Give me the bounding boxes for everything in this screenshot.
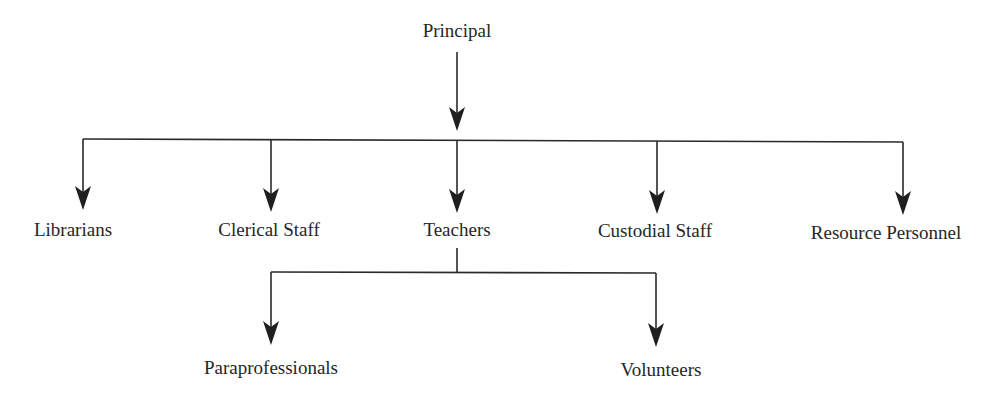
- node-clerical-staff: Clerical Staff: [218, 219, 319, 241]
- node-librarians: Librarians: [34, 219, 112, 241]
- node-principal: Principal: [423, 20, 492, 42]
- node-teachers: Teachers: [423, 219, 490, 241]
- org-chart-connectors: [0, 0, 1008, 398]
- connector-level1-bus: [83, 139, 903, 142]
- connector-level2-bus: [271, 272, 656, 273]
- node-volunteers: Volunteers: [621, 359, 702, 381]
- node-paraprofessionals: Paraprofessionals: [204, 357, 338, 379]
- node-custodial-staff: Custodial Staff: [598, 220, 712, 242]
- node-resource-personnel: Resource Personnel: [811, 222, 961, 244]
